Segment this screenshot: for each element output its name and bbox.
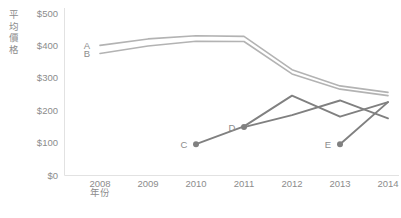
x-tick-label: 2009 (137, 178, 158, 189)
axis-lines (65, 8, 400, 176)
x-tick-label: 2011 (234, 178, 254, 189)
series-marker-d (241, 124, 247, 130)
y-tick-label: $0 (47, 170, 58, 181)
x-tick-label: 2014 (377, 178, 398, 189)
y-tick-label: $500 (37, 8, 58, 19)
x-axis-title: 年份 (90, 187, 110, 198)
series-lines (100, 36, 388, 148)
series-label-b: B (84, 48, 90, 59)
series-line-b (100, 41, 388, 95)
y-tick-label: $300 (37, 72, 58, 83)
x-axis-tick-labels: 2008200920102011201220132014 (89, 178, 398, 189)
series-line-c (196, 96, 388, 145)
x-tick-label: 2013 (329, 178, 350, 189)
y-tick-label: $100 (37, 137, 58, 148)
y-tick-label: $200 (37, 105, 58, 116)
line-chart: 平均價格 $500$400$300$200$100$0 200820092010… (0, 0, 401, 218)
y-axis-tick-labels: $500$400$300$200$100$0 (37, 8, 58, 181)
x-tick-label: 2012 (281, 178, 302, 189)
x-tick-label: 2010 (185, 178, 206, 189)
series-marker-e (337, 141, 343, 147)
series-marker-c (193, 141, 199, 147)
series-label-c: C (181, 139, 188, 150)
chart-canvas: $500$400$300$200$100$0 20082009201020112… (0, 0, 401, 218)
series-labels: ABCDE (84, 40, 331, 150)
series-label-d: D (229, 122, 236, 133)
y-tick-label: $400 (37, 40, 58, 51)
series-label-e: E (325, 139, 331, 150)
series-line-d (244, 100, 388, 127)
series-line-a (100, 36, 388, 93)
